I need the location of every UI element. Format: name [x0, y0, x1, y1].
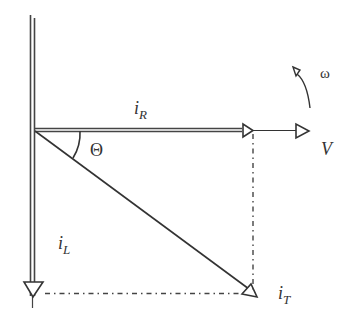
label-omega: ω	[320, 65, 330, 81]
label-theta: Θ	[90, 140, 103, 160]
i-r-vector	[34, 124, 253, 137]
phasor-diagram: iR Θ V ω iL iT	[0, 0, 355, 324]
v-vector	[253, 124, 309, 138]
omega-rotation-arrow	[293, 67, 310, 108]
label-i-l: iL	[58, 233, 70, 257]
label-i-r: iR	[134, 98, 147, 122]
i-t-vector	[35, 131, 257, 297]
label-v: V	[321, 139, 334, 159]
i-l-vector	[24, 15, 43, 308]
label-i-t: iT	[278, 283, 291, 307]
theta-arc	[73, 131, 80, 158]
